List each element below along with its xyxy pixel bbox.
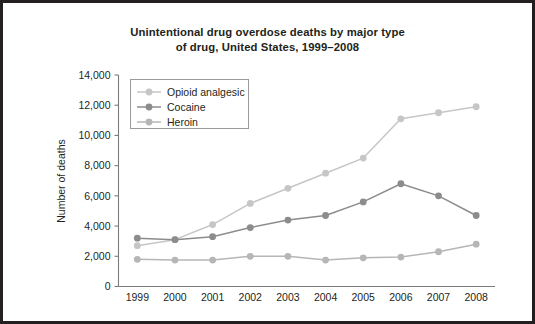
data-point [322,212,329,219]
data-point [247,224,254,231]
data-point [285,217,292,224]
y-tick-label: 2,000 [84,250,110,262]
x-tick-label: 2007 [427,291,451,303]
data-point [397,254,404,261]
data-point [172,257,179,264]
data-point [134,242,141,249]
legend-item-label: Opioid analgesic [167,86,245,98]
data-point [473,103,480,110]
x-tick-label: 2005 [352,291,376,303]
data-point [172,236,179,243]
data-point [473,212,480,219]
series-heroin [134,241,480,264]
data-point [397,115,404,122]
data-point [360,155,367,162]
data-point [435,192,442,199]
x-tick-label: 2001 [201,291,225,303]
data-point [285,253,292,260]
data-point [285,185,292,192]
data-point [209,233,216,240]
x-tick-label: 2006 [389,291,413,303]
legend-item-label: Cocaine [167,101,206,113]
data-point [247,200,254,207]
series-line [137,184,476,240]
y-tick-label: 14,000 [78,69,110,81]
data-point [322,170,329,177]
data-point [134,235,141,242]
data-point [247,253,254,260]
data-point [360,199,367,206]
y-tick-label: 12,000 [78,99,110,111]
data-point [209,257,216,264]
legend-swatch-marker [146,89,153,96]
chart-figure: Unintentional drug overdose deaths by ma… [0,0,535,324]
y-axis-ticks: 02,0004,0006,0008,00010,00012,00014,000 [78,69,118,292]
x-axis-ticks: 1999200020012002200320042005200620072008 [126,291,488,303]
data-point [209,221,216,228]
data-point [360,254,367,261]
data-point [473,241,480,248]
series-line [137,244,476,260]
y-tick-label: 10,000 [78,129,110,141]
data-point [435,109,442,116]
legend-item-label: Heroin [167,116,198,128]
series-cocaine [134,180,480,243]
x-tick-label: 2000 [163,291,187,303]
line-chart-plot: Number of deaths 02,0004,0006,0008,00010… [3,3,535,324]
x-tick-label: 2003 [276,291,300,303]
x-tick-label: 2004 [314,291,338,303]
data-point [397,180,404,187]
y-tick-label: 4,000 [84,220,110,232]
x-tick-label: 2002 [239,291,263,303]
legend-swatch-marker [146,104,153,111]
data-point [435,248,442,255]
data-point [322,257,329,264]
chart-legend: Opioid analgesicCocaineHeroin [131,80,249,129]
y-tick-label: 6,000 [84,190,110,202]
data-point [134,256,141,263]
y-axis-title: Number of deaths [55,139,67,222]
legend-swatch-marker [146,119,153,126]
y-tick-label: 8,000 [84,159,110,171]
x-tick-label: 2008 [464,291,488,303]
y-tick-label: 0 [105,280,111,292]
x-tick-label: 1999 [126,291,150,303]
